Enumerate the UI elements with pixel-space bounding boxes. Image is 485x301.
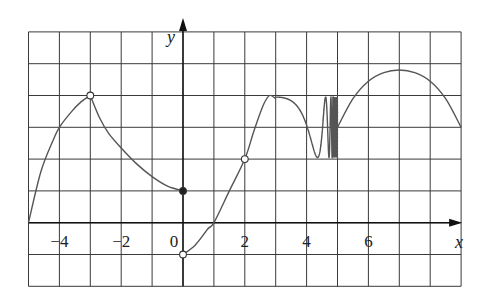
x-tick-label: 4 xyxy=(302,232,311,251)
y-axis-arrow-icon xyxy=(179,18,187,31)
x-tick-label: 0 xyxy=(170,232,179,251)
x-tick-label: −4 xyxy=(50,232,69,251)
y-axis-label: y xyxy=(165,27,175,47)
x-tick-label: −2 xyxy=(112,232,130,251)
markers xyxy=(87,92,248,258)
open-point-marker xyxy=(241,156,248,163)
tick-labels: −4−20246xy xyxy=(50,27,463,252)
closed-point-marker xyxy=(180,188,187,195)
x-tick-label: 6 xyxy=(364,232,373,251)
x-axis-arrow-icon xyxy=(449,219,462,227)
x-axis-label: x xyxy=(454,232,463,252)
x-tick-label: 2 xyxy=(241,232,250,251)
curve-rise-through-origin-region xyxy=(183,95,276,254)
open-point-marker xyxy=(180,251,187,258)
open-point-marker xyxy=(87,92,94,99)
function-graph: −4−20246xy xyxy=(0,0,485,301)
curve-decay xyxy=(90,96,183,191)
